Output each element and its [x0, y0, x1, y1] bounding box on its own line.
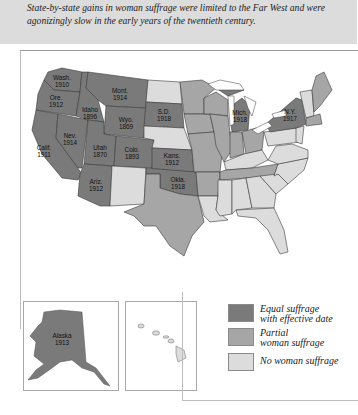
legend-item-none: No woman suffrage [228, 353, 338, 371]
state-florida [236, 208, 288, 254]
label-south-dakota: S.D.1918 [157, 108, 172, 122]
island-maui [168, 339, 174, 343]
state-arkansas [196, 172, 220, 196]
alaska-inset: Alaska1913 [23, 301, 119, 391]
legend-item-equal: Equal suffrage with effective date [228, 304, 333, 324]
island-molokai [163, 336, 169, 338]
state-iowa [184, 114, 214, 134]
state-maine [312, 72, 332, 112]
label-oklahoma: Okla.1918 [171, 176, 186, 190]
label-california: Calif.1911 [37, 144, 52, 158]
island-kauai [138, 324, 144, 328]
legend-swatch-partial [228, 328, 254, 346]
legend-swatch-none [228, 353, 254, 371]
label-arizona: Ariz.1912 [89, 178, 104, 192]
island-oahu [153, 331, 160, 335]
label-new-york: N.Y.1917 [283, 108, 298, 122]
state-new-jersey [296, 126, 304, 144]
caption-text: State-by-state gains in woman suffrage w… [27, 1, 327, 27]
label-idaho: Idaho1896 [82, 106, 98, 120]
legend-swatch-equal [228, 304, 254, 322]
state-wisconsin [204, 92, 228, 116]
state-alaska [28, 310, 110, 386]
legend-label-equal: Equal suffrage with effective date [260, 304, 333, 324]
label-utah: Utah1870 [93, 144, 108, 158]
label-montana: Mont.1914 [112, 87, 128, 101]
label-alaska: Alaska1913 [52, 332, 72, 346]
state-north-dakota [146, 80, 182, 104]
legend-label-partial: Partial woman suffrage [260, 328, 324, 348]
state-indiana [230, 132, 244, 158]
label-michigan: Mich.1918 [232, 109, 247, 123]
legend: Equal suffrage with effective date Parti… [182, 292, 358, 401]
legend-item-partial: Partial woman suffrage [228, 328, 324, 348]
label-wyoming: Wyo.1869 [119, 116, 134, 130]
caption-box: State-by-state gains in woman suffrage w… [0, 0, 357, 44]
label-kansas: Kans.1912 [164, 152, 181, 166]
us-map: Wash.1910 Ore.1912 Calif.1911 Idaho1896 … [20, 50, 357, 290]
label-oregon: Ore.1912 [49, 94, 64, 108]
alaska-map: Alaska1913 [24, 302, 118, 390]
state-mississippi [216, 180, 232, 216]
legend-label-none: No woman suffrage [260, 353, 338, 366]
state-new-mexico [110, 166, 146, 206]
label-colorado: Colo.1893 [125, 146, 140, 160]
label-nevada: Nev.1914 [63, 132, 78, 146]
label-washington: Wash.1910 [53, 74, 71, 88]
